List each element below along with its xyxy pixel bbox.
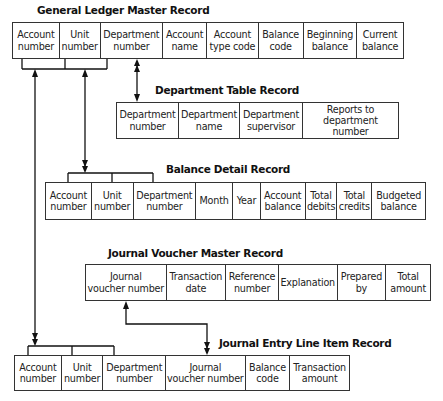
je-key-bracket [28,346,114,355]
jv-to-journal-entry-arrow [123,301,210,355]
gl-to-journal-entry-arrow [32,69,38,346]
gl-key-bracket [22,59,107,69]
gl-to-balance-detail-arrow [82,69,88,173]
gl-to-department-arrow [134,59,140,102]
relationship-connectors [0,0,443,401]
bd-key-bracket [68,173,153,182]
